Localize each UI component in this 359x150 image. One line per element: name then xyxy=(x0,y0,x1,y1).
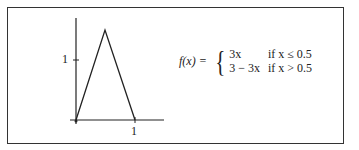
formula-lhs: f(x) = xyxy=(179,54,207,69)
origin-point xyxy=(75,120,78,123)
case-1-cond: if x ≤ 0.5 xyxy=(268,47,312,61)
case-2-expr: 3 − 3x xyxy=(229,61,260,75)
formula-cases: 3x if x ≤ 0.5 3 − 3x if x > 0.5 xyxy=(229,47,312,75)
x-tick-label: 1 xyxy=(131,124,137,139)
tent-function-line xyxy=(76,30,135,120)
y-tick-label: 1 xyxy=(62,52,68,67)
piecewise-formula: f(x) = { 3x if x ≤ 0.5 3 − 3x if x > 0.5 xyxy=(179,47,312,75)
case-1-expr: 3x xyxy=(229,47,260,61)
left-brace: { xyxy=(215,47,225,75)
tent-map-plot xyxy=(0,0,359,150)
case-2-cond: if x > 0.5 xyxy=(268,61,312,75)
